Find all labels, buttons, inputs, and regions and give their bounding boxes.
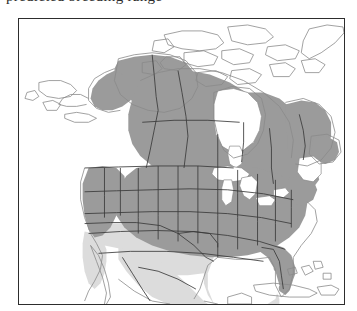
map-frame: [18, 18, 345, 305]
figure-panel: predicted breeding range: [0, 0, 357, 311]
figure-caption-clipped: predicted breeding range: [0, 0, 357, 12]
north-america-map: [19, 19, 344, 304]
figure-caption-text: predicted breeding range: [6, 0, 162, 4]
